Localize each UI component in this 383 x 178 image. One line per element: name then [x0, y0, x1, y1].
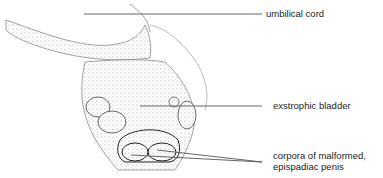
label-corpora-line2: epispadiac penis: [273, 161, 344, 172]
label-exstrophic-bladder: exstrophic bladder: [273, 100, 351, 111]
label-umbilical-cord: umbilical cord: [266, 8, 324, 19]
label-corpora-line1: corpora of malformed,: [273, 150, 366, 161]
